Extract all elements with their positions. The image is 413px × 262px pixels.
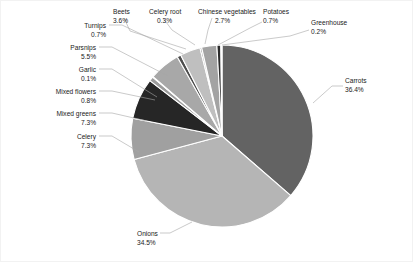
slice-label-name-mixed-flowers: Mixed flowers	[56, 88, 97, 95]
slice-label-value-potatoes: 0.7%	[263, 17, 278, 24]
pie-chart-svg: Carrots36.4%Onions34.5%Celery7.3%Mixed g…	[0, 0, 413, 262]
slice-label-value-chinese-vegetables: 2.7%	[215, 17, 230, 24]
slice-label-name-beets: Beets	[113, 8, 131, 15]
pie-slices-group	[131, 45, 313, 227]
slice-label-name-carrots: Carrots	[345, 77, 367, 84]
slice-label-name-garlic: Garlic	[79, 66, 97, 73]
slice-label-value-garlic: 0.1%	[81, 75, 96, 82]
slice-label-name-celery-root: Celery root	[149, 8, 181, 16]
leader-line-potatoes	[218, 22, 262, 45]
slice-label-value-greenhouse: 0.2%	[311, 28, 326, 35]
leader-line-turnips	[109, 25, 183, 54]
leader-line-chinese-vegetables	[205, 18, 212, 44]
slice-label-value-onions: 34.5%	[137, 239, 156, 246]
slice-label-name-potatoes: Potatoes	[263, 8, 290, 15]
slice-label-value-celery: 7.3%	[81, 142, 96, 149]
slice-label-name-celery: Celery	[77, 133, 97, 141]
slice-label-value-celery-root: 0.3%	[157, 17, 172, 24]
slice-label-name-onions: Onions	[137, 230, 159, 237]
pie-chart-container: Carrots36.4%Onions34.5%Celery7.3%Mixed g…	[0, 0, 413, 262]
leader-line-beets	[124, 18, 186, 49]
slice-label-name-parsnips: Parsnips	[70, 44, 96, 52]
slice-label-name-turnips: Turnips	[84, 22, 106, 30]
slice-label-name-mixed-greens: Mixed greens	[56, 110, 96, 118]
leader-line-greenhouse	[222, 30, 309, 45]
slice-label-value-parsnips: 5.5%	[81, 53, 96, 60]
slice-label-value-mixed-flowers: 0.8%	[81, 97, 96, 104]
slice-label-value-beets: 3.6%	[113, 17, 128, 24]
slice-label-value-turnips: 0.7%	[91, 31, 106, 38]
slice-label-value-mixed-greens: 7.3%	[81, 119, 96, 126]
leader-line-onions	[160, 222, 192, 233]
slice-label-name-chinese-vegetables: Chinese vegetables	[198, 8, 257, 16]
slice-label-value-carrots: 36.4%	[345, 86, 364, 93]
leader-line-carrots	[313, 86, 343, 103]
slice-label-name-greenhouse: Greenhouse	[311, 19, 348, 26]
